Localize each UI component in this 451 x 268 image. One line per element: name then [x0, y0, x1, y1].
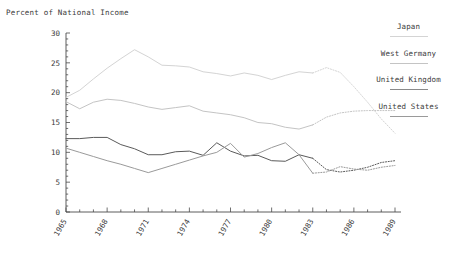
x-tick-label: 1965: [52, 218, 69, 238]
x-tick-label: 1971: [134, 218, 151, 238]
x-tick-label: 1977: [216, 218, 233, 238]
series-projection-united-kingdom: [313, 158, 395, 172]
x-tick-label: 1983: [299, 218, 316, 238]
legend-swatch: [390, 36, 428, 37]
series-line-united-states: [66, 143, 313, 173]
x-tick-label: 1974: [175, 217, 192, 238]
chart-container: Percent of National Income 0510152025301…: [0, 0, 451, 268]
y-tick-label: 10: [51, 148, 61, 157]
legend-entry-west-germany[interactable]: West Germany: [366, 49, 451, 64]
y-tick-label: 15: [51, 118, 60, 127]
legend-label: Japan: [366, 22, 451, 31]
x-tick-label: 1986: [340, 217, 357, 238]
y-tick-label: 25: [51, 59, 60, 68]
series-line-west-germany: [66, 99, 313, 129]
x-tick-label: 1980: [258, 217, 275, 238]
legend-swatch: [390, 89, 428, 90]
x-tick-label: 1968: [93, 217, 110, 238]
legend-entry-united-states[interactable]: United States: [366, 102, 451, 117]
legend-swatch: [390, 116, 428, 117]
legend-label: West Germany: [366, 49, 451, 58]
y-tick-label: 20: [51, 88, 61, 97]
legend-entry-united-kingdom[interactable]: United Kingdom: [366, 75, 451, 90]
chart-legend: JapanWest GermanyUnited KingdomUnited St…: [366, 22, 451, 128]
legend-entry-japan[interactable]: Japan: [366, 22, 451, 37]
legend-label: United Kingdom: [366, 75, 451, 84]
y-tick-label: 30: [51, 29, 61, 38]
y-tick-label: 0: [55, 208, 60, 217]
y-tick-label: 5: [55, 178, 60, 187]
legend-label: United States: [366, 102, 451, 111]
series-projection-united-states: [313, 165, 395, 173]
legend-swatch: [390, 63, 428, 64]
x-tick-label: 1989: [381, 218, 398, 238]
series-line-japan: [66, 50, 313, 98]
series-line-united-kingdom: [66, 137, 313, 161]
